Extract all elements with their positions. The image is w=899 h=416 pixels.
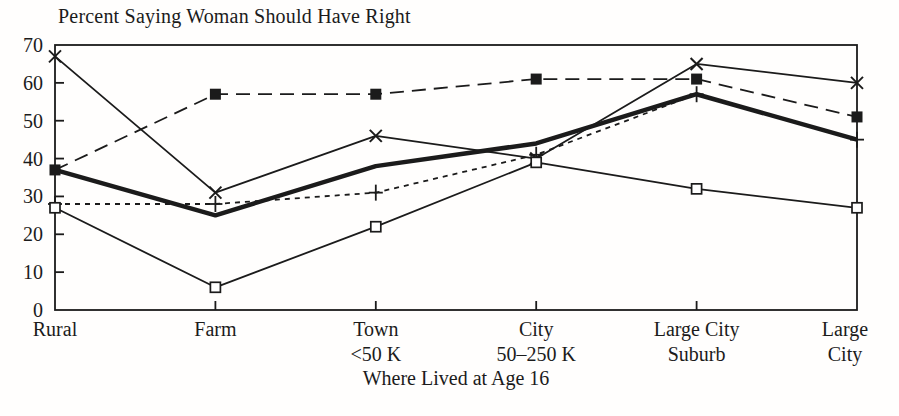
series-filled-square-long-dash-marker-0 [50, 164, 61, 175]
line-chart: 010203040506070RuralFarmTown<50 KCity50–… [0, 0, 899, 416]
series-filled-square-long-dash-marker-2 [370, 89, 381, 100]
series-open-square-solid-marker-3 [531, 157, 541, 167]
y-tick-label-70: 70 [23, 34, 43, 56]
chart-figure: Percent Saying Woman Should Have Right 0… [0, 0, 899, 416]
series-filled-square-long-dash-marker-3 [531, 74, 542, 85]
y-tick-label-40: 40 [23, 148, 43, 170]
y-tick-label-10: 10 [23, 261, 43, 283]
series-plus-short-dash-line [55, 94, 857, 204]
category-label-0: Rural [33, 318, 78, 340]
series-x-solid-line [55, 56, 857, 192]
series-open-square-solid-marker-5 [852, 203, 862, 213]
x-axis-title: Where Lived at Age 16 [106, 367, 806, 390]
series-open-square-solid-marker-4 [692, 184, 702, 194]
category-label-3: City50–250 K [496, 318, 576, 365]
category-label-4: Large CitySuburb [654, 318, 740, 365]
series-filled-square-long-dash-marker-1 [210, 89, 221, 100]
category-label-5: LargeCity [822, 318, 868, 366]
series-open-square-solid-marker-1 [210, 282, 220, 292]
category-label-1: Farm [194, 318, 237, 340]
category-label-2: Town<50 K [350, 318, 401, 365]
plot-frame [55, 45, 857, 310]
series-filled-square-long-dash-marker-4 [691, 74, 702, 85]
y-tick-label-30: 30 [23, 185, 43, 207]
series-filled-square-long-dash-marker-5 [852, 111, 863, 122]
y-tick-label-60: 60 [23, 72, 43, 94]
series-open-square-solid-line [55, 162, 857, 287]
series-open-square-solid-marker-0 [50, 203, 60, 213]
y-tick-label-20: 20 [23, 223, 43, 245]
y-tick-label-50: 50 [23, 110, 43, 132]
series-open-square-solid-marker-2 [371, 222, 381, 232]
